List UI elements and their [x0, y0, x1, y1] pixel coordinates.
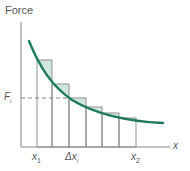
delta-x-label-main: Δx — [65, 151, 77, 162]
x-axis-label: x — [173, 140, 178, 151]
delta-x-label-sub: i — [77, 158, 78, 164]
diagram-graphic — [0, 0, 190, 171]
approximation-rectangles — [37, 60, 136, 147]
y-axis-label: Force — [5, 4, 33, 16]
x2-label-sub: 2 — [136, 157, 140, 164]
rectangle-6 — [119, 118, 136, 147]
force-displacement-diagram: Force x Fi x1 Δxi x2 — [0, 0, 190, 171]
x1-label: x1 — [32, 151, 41, 164]
fi-label-sub: i — [10, 98, 11, 104]
fi-label: Fi — [4, 91, 11, 104]
force-curve — [29, 41, 163, 123]
delta-x-label: Δxi — [65, 151, 78, 164]
x1-label-sub: 1 — [37, 157, 41, 164]
x2-label: x2 — [131, 151, 140, 164]
